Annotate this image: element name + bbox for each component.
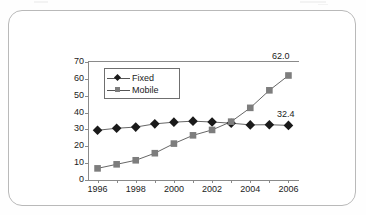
data-point-fixed: [265, 120, 275, 130]
series-layer: [0, 0, 366, 215]
line-chart: 010203040506070 199619982000200220042006…: [0, 0, 366, 215]
data-point-mobile: [94, 165, 101, 172]
legend-entry-fixed: Fixed: [105, 72, 179, 84]
data-point-fixed: [207, 117, 217, 127]
data-point-fixed: [93, 125, 103, 135]
fixed-end-value-label: 32.4: [277, 110, 295, 119]
data-point-mobile: [228, 118, 235, 125]
data-point-fixed: [169, 117, 179, 127]
data-point-fixed: [150, 119, 160, 129]
legend-marker-diamond-icon: [105, 73, 132, 84]
data-point-mobile: [152, 150, 159, 157]
data-point-mobile: [285, 72, 292, 79]
data-point-mobile: [113, 161, 120, 168]
legend-label-fixed: Fixed: [132, 73, 154, 83]
data-point-mobile: [190, 132, 197, 139]
mobile-end-value-label: 62.0: [272, 52, 290, 61]
scanned-page: 010203040506070 199619982000200220042006…: [0, 0, 366, 215]
data-point-mobile: [247, 105, 254, 112]
chart-legend: Fixed Mobile: [104, 68, 180, 99]
data-point-fixed: [284, 121, 294, 131]
legend-label-mobile: Mobile: [132, 85, 159, 95]
data-point-mobile: [266, 87, 273, 94]
data-point-mobile: [132, 157, 139, 164]
data-point-fixed: [112, 123, 122, 133]
data-point-mobile: [171, 140, 178, 147]
data-point-fixed: [245, 120, 255, 130]
data-point-fixed: [188, 116, 198, 126]
data-point-mobile: [209, 127, 216, 134]
legend-marker-square-icon: [105, 85, 132, 96]
legend-entry-mobile: Mobile: [105, 84, 179, 96]
data-point-fixed: [131, 122, 141, 132]
